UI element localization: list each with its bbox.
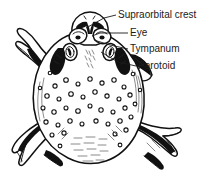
toad-body-outline	[33, 32, 144, 163]
label-eye: Eye	[130, 27, 148, 38]
label-supraorbital-crest: Supraorbital crest	[118, 9, 197, 20]
toad-anatomy-figure: Supraorbital crest Eye Tympanum Parotoid	[0, 0, 212, 187]
label-tympanum: Tympanum	[130, 43, 179, 54]
label-parotoid: Parotoid	[138, 60, 175, 71]
toad-diagram-svg: Supraorbital crest Eye Tympanum Parotoid	[0, 0, 212, 187]
